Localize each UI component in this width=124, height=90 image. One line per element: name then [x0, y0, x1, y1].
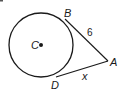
stray-mark: [0, 0, 3, 2]
label-d: D: [51, 79, 59, 90]
center-point-c: [39, 43, 43, 47]
label-c: C: [31, 39, 39, 51]
geometry-diagram: C B A D 6 x: [0, 0, 124, 90]
segment-ab-length: 6: [87, 27, 93, 38]
label-a: A: [109, 56, 117, 68]
label-b: B: [64, 7, 71, 19]
segment-ad-length: x: [81, 70, 88, 82]
